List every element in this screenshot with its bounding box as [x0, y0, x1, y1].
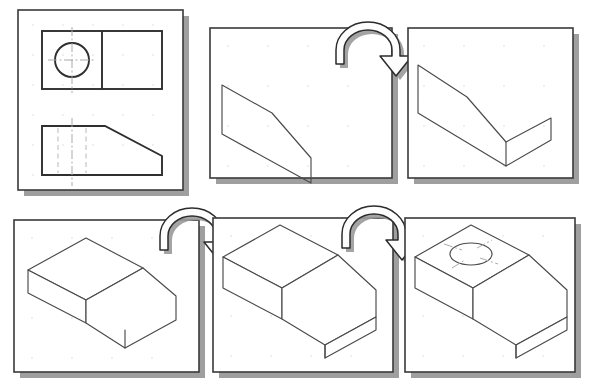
panel-orthographic-views[interactable] [18, 10, 189, 196]
panel-partial-extrusion[interactable] [14, 220, 205, 378]
panel-3-background [408, 28, 573, 178]
panel-completed-solid[interactable] [213, 218, 399, 378]
panel-profile-with-flange[interactable] [408, 28, 579, 184]
modeling-sequence-figure [0, 0, 600, 391]
diagram-canvas [0, 0, 600, 391]
panel-profile-sketch[interactable] [210, 28, 398, 184]
panel-2-background [210, 28, 392, 178]
panel-solid-with-hole[interactable] [405, 218, 581, 378]
